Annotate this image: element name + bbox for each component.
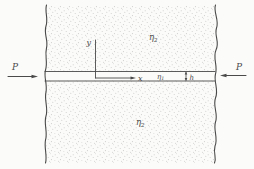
layer-compression-diagram: P P y x h η1 η2 η2 — [0, 0, 254, 169]
force-label-right: P — [235, 62, 243, 72]
axis-label-y: y — [86, 38, 92, 47]
diagram-canvas: P P y x h η1 η2 η2 — [0, 0, 254, 169]
thickness-label: h — [190, 74, 195, 82]
axis-label-x: x — [138, 74, 143, 83]
force-label-left: P — [11, 62, 19, 72]
medium-stipple-texture — [46, 5, 214, 163]
